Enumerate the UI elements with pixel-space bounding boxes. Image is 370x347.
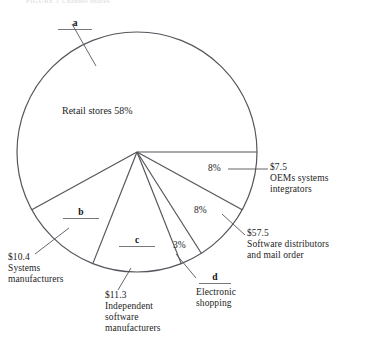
slice-divider-1 xyxy=(137,152,242,210)
leader-line-a xyxy=(72,24,96,66)
leader-line-systems xyxy=(35,228,69,254)
oem-name-line2: integrators xyxy=(270,184,312,196)
slice-divider-5 xyxy=(32,152,137,210)
distributors-value: $57.5 xyxy=(247,228,269,240)
electronic-name-line2: shopping xyxy=(196,298,232,310)
key-letter-c: c xyxy=(128,235,146,245)
electronic-name-line1: Electronic xyxy=(196,287,236,299)
slice-divider-2 xyxy=(137,152,201,253)
percent-distributors: 8% xyxy=(194,205,207,215)
percent-electronic: 3% xyxy=(173,240,186,250)
oem-name-line1: OEMs systems xyxy=(270,173,328,185)
systems-name-line1: Systems xyxy=(8,263,40,275)
pie-chart-figure: FIGURE 1 Channel shares xyxy=(0,0,370,347)
independent-name-line2: software xyxy=(105,312,139,324)
systems-value: $10.4 xyxy=(8,252,30,264)
systems-name-line2: manufacturers xyxy=(8,274,64,286)
distributors-name-line2: and mail order xyxy=(247,250,304,262)
percent-oem: 8% xyxy=(208,163,221,173)
independent-name-line3: manufacturers xyxy=(105,323,161,335)
independent-name-line1: Independent xyxy=(105,301,153,313)
oem-value: $7.5 xyxy=(270,162,287,174)
retail-stores-label: Retail stores 58% xyxy=(62,105,133,116)
key-letter-d: d xyxy=(206,272,224,282)
leader-line-distributors xyxy=(222,214,245,235)
key-letter-b: b xyxy=(72,207,90,217)
independent-value: $11.3 xyxy=(105,290,127,302)
key-letter-a: a xyxy=(66,18,84,28)
distributors-name-line1: Software distributors xyxy=(247,239,329,251)
